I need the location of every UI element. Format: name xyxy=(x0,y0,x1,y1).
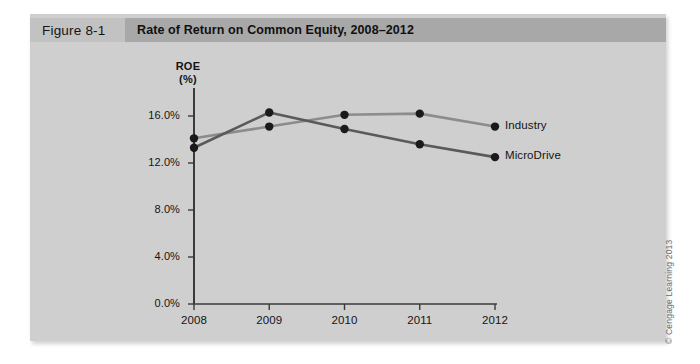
copyright-notice: © Cengage Learning 2013 xyxy=(664,218,674,232)
data-point-marker xyxy=(340,125,348,133)
data-point-marker xyxy=(416,109,424,117)
data-point-marker xyxy=(265,108,273,116)
x-axis-tick-label: 2008 xyxy=(168,314,220,326)
copyright-text: © Cengage Learning 2013 xyxy=(664,330,674,344)
y-axis-tick-label: 16.0% xyxy=(132,109,180,121)
series-label-industry: Industry xyxy=(505,119,547,131)
series-label-microdrive: MicroDrive xyxy=(505,149,561,161)
x-axis-tick-label: 2010 xyxy=(319,314,371,326)
line-chart-plot xyxy=(0,0,700,364)
x-axis-tick-label: 2012 xyxy=(469,314,521,326)
y-axis-tick-label: 0.0% xyxy=(132,297,180,309)
data-point-marker xyxy=(190,144,198,152)
y-axis-tick-label: 4.0% xyxy=(132,250,180,262)
x-axis-tick-label: 2009 xyxy=(243,314,295,326)
x-axis-tick-label: 2011 xyxy=(394,314,446,326)
data-point-marker xyxy=(491,153,499,161)
data-point-marker xyxy=(265,122,273,130)
data-point-marker xyxy=(190,134,198,142)
y-axis-tick-label: 8.0% xyxy=(132,203,180,215)
y-axis-tick-label: 12.0% xyxy=(132,156,180,168)
x-axis-ticks xyxy=(194,304,495,310)
data-point-marker xyxy=(340,111,348,119)
data-point-marker xyxy=(491,122,499,130)
chart-series-group xyxy=(190,108,499,161)
data-point-marker xyxy=(416,140,424,148)
